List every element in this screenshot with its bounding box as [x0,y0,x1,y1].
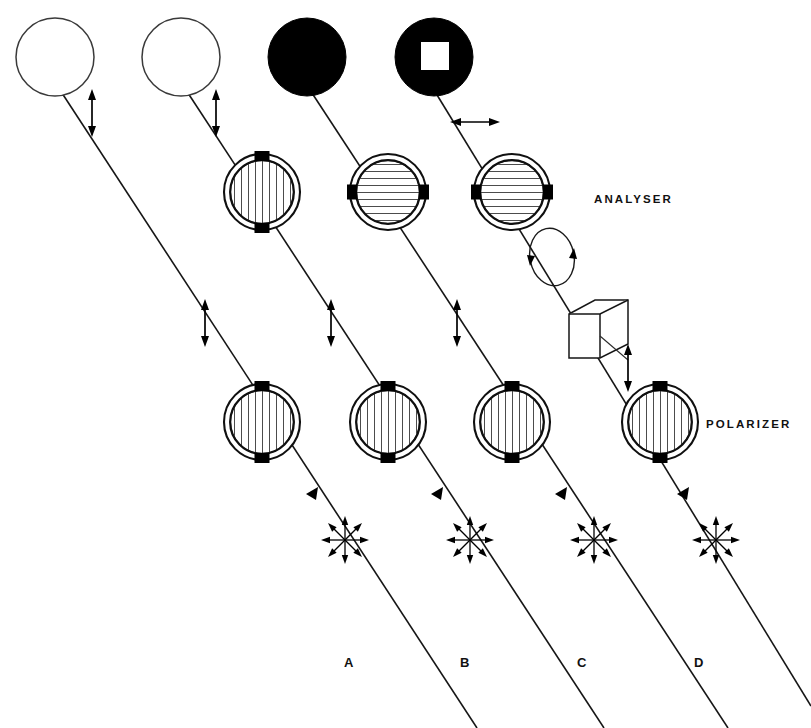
column-label-a: A [344,655,354,670]
unpolarized-light-star-b [446,516,494,564]
unpolarized-light-star-c [570,516,618,564]
result-spot-b [142,18,220,96]
diagram-canvas: ANALYSER POLARIZER A B C D [0,0,811,728]
unpolarized-light-star-a [321,516,369,564]
result-spot-c [268,18,346,96]
column-label-d: D [694,655,703,670]
column-label-b: B [460,655,469,670]
result-spot-d [395,18,473,96]
analyser-label: ANALYSER [594,193,673,205]
bright-square-region [421,42,449,70]
polarizer-label: POLARIZER [706,418,791,430]
result-spot-a [16,18,94,96]
unpolarized-light-star-d [692,516,740,564]
column-label-c: C [577,655,587,670]
optics-diagram-figure: ANALYSER POLARIZER A B C D [0,0,811,728]
